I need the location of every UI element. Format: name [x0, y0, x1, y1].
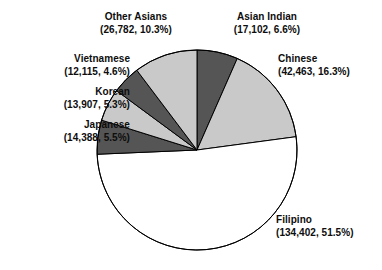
slice-label-japanese: Japanese (14,388, 5.5%): [8, 119, 130, 144]
slice-label-value: (26,782, 10.3%): [74, 24, 198, 37]
slice-label-other-asians: Other Asians (26,782, 10.3%): [74, 11, 198, 36]
slice-label-value: (17,102, 6.6%): [206, 24, 328, 37]
slice-label-value: (14,388, 5.5%): [8, 132, 130, 145]
slice-label-chinese: Chinese (42,463, 16.3%): [278, 53, 382, 78]
slice-label-name: Filipino: [276, 214, 382, 227]
slice-label-value: (134,402, 51.5%): [276, 227, 382, 240]
slice-label-name: Asian Indian: [206, 11, 328, 24]
slice-label-name: Chinese: [278, 53, 382, 66]
slice-label-name: Vietnamese: [8, 53, 130, 66]
slice-label-value: (12,115, 4.6%): [8, 66, 130, 79]
slice-label-name: Japanese: [8, 119, 130, 132]
slice-label-asian-indian: Asian Indian (17,102, 6.6%): [206, 11, 328, 36]
slice-label-korean: Korean (13,907, 5.3%): [4, 86, 130, 111]
slice-label-value: (42,463, 16.3%): [278, 66, 382, 79]
pie-chart-figure: Other Asians (26,782, 10.3%) Asian India…: [0, 0, 382, 270]
pie-slice-filipino: [97, 137, 297, 250]
slice-label-value: (13,907, 5.3%): [4, 99, 130, 112]
slice-label-name: Other Asians: [74, 11, 198, 24]
slice-label-name: Korean: [4, 86, 130, 99]
slice-label-filipino: Filipino (134,402, 51.5%): [276, 214, 382, 239]
slice-label-vietnamese: Vietnamese (12,115, 4.6%): [8, 53, 130, 78]
